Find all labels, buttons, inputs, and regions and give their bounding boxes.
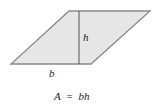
- formula-rhs: bh: [78, 90, 90, 102]
- parallelogram-shape: [11, 11, 150, 64]
- formula-lhs: A: [53, 90, 61, 102]
- formula-equals: =: [66, 90, 72, 102]
- height-label: h: [83, 31, 89, 43]
- base-label: b: [49, 67, 55, 79]
- parallelogram-diagram: h b A = bh: [0, 0, 156, 107]
- area-formula: A = bh: [53, 90, 90, 102]
